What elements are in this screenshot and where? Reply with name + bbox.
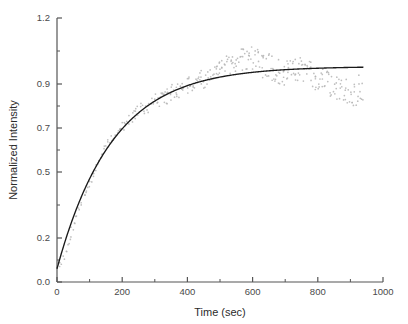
y-tick-label: 0.0 bbox=[37, 276, 50, 287]
chart-canvas: 0.00.20.50.70.91.202004006008001000Time … bbox=[0, 0, 408, 324]
x-tick-label: 400 bbox=[179, 286, 195, 297]
x-tick-label: 1000 bbox=[372, 286, 393, 297]
y-tick-label: 0.2 bbox=[37, 232, 50, 243]
x-axis-ticks: 02004006008001000 bbox=[54, 277, 393, 297]
y-tick-label: 0.7 bbox=[37, 122, 50, 133]
chart-figure: 0.00.20.50.70.91.202004006008001000Time … bbox=[0, 0, 408, 324]
y-axis-ticks: 0.00.20.50.70.91.2 bbox=[37, 12, 62, 287]
y-tick-label: 0.9 bbox=[37, 78, 50, 89]
y-tick-label: 1.2 bbox=[37, 12, 50, 23]
x-axis-title: Time (sec) bbox=[194, 306, 246, 318]
y-tick-label: 0.5 bbox=[37, 166, 50, 177]
x-tick-label: 600 bbox=[245, 286, 261, 297]
y-axis-title: Normalized Intensity bbox=[7, 100, 19, 200]
x-tick-label: 200 bbox=[114, 286, 130, 297]
x-tick-label: 800 bbox=[310, 286, 326, 297]
fit-curve bbox=[57, 67, 363, 269]
x-tick-label: 0 bbox=[54, 286, 59, 297]
